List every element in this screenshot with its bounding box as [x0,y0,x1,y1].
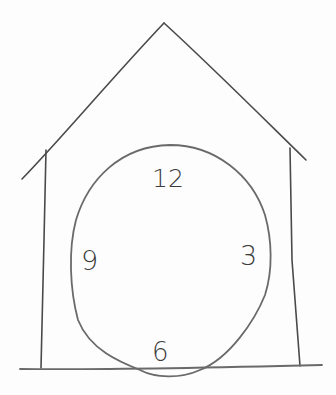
right-wall [290,148,300,366]
roof-left-edge [22,23,164,179]
numeral-12: 12 [152,164,184,193]
numeral-6: 6 [152,337,169,367]
numeral-3: 3 [240,240,257,271]
roof-right-edge [164,23,306,160]
left-wall [41,150,46,368]
drawing-canvas: 12 3 6 9 [0,0,336,395]
numeral-9: 9 [81,245,98,276]
cuckoo-clock-drawing: 12 3 6 9 [0,0,336,395]
ground-line [20,365,322,369]
